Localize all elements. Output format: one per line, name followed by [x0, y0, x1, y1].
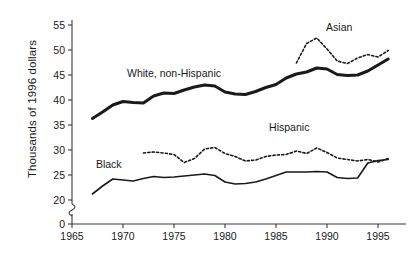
y-tick-label: 30 — [53, 144, 65, 156]
plot-area: 0202530354045505519651970197519801985199… — [0, 0, 416, 254]
y-tick-label: 20 — [53, 194, 65, 206]
y-tick-label: 50 — [53, 44, 65, 56]
x-tick-label: 1980 — [213, 230, 237, 242]
series-line-hispanic — [143, 148, 388, 163]
y-tick-label: 45 — [53, 69, 65, 81]
series-label-white-non-hispanic: White, non-Hispanic — [127, 67, 221, 79]
y-tick-label: 0 — [59, 218, 65, 230]
y-tick-label: 35 — [53, 119, 65, 131]
x-tick-label: 1985 — [264, 230, 288, 242]
x-tick-label: 1965 — [60, 230, 84, 242]
y-tick-label: 25 — [53, 169, 65, 181]
x-tick-label: 1970 — [111, 230, 135, 242]
x-tick-label: 1995 — [366, 230, 390, 242]
x-tick-label: 1990 — [315, 230, 339, 242]
series-label-hispanic: Hispanic — [269, 121, 309, 133]
y-tick-label: 40 — [53, 94, 65, 106]
series-line-asian — [296, 38, 388, 64]
series-label-black: Black — [96, 158, 122, 170]
series-line-black — [92, 160, 388, 195]
x-tick-label: 1975 — [162, 230, 186, 242]
series-label-asian: Asian — [326, 21, 352, 33]
y-tick-label: 55 — [53, 19, 65, 31]
income-by-race-line-chart: Thousands of 1996 dollars 02025303540455… — [0, 0, 416, 254]
